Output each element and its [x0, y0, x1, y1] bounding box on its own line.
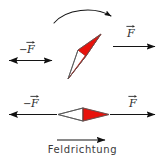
- lower-compass-needle: [58, 108, 109, 122]
- field-direction-caption: Feldrichtung: [0, 145, 165, 155]
- force-symbol: F: [127, 27, 135, 40]
- force-symbol: F: [129, 97, 137, 110]
- label-negative-force-lower: − F: [23, 98, 40, 109]
- figure-vector-canvas: [0, 0, 165, 164]
- lower-left-force-arrow: [9, 111, 57, 118]
- label-negative-force-upper: − F: [19, 44, 36, 55]
- rotation-arc-arrow: [54, 10, 111, 23]
- upper-left-force-arrow-shaft: [9, 57, 52, 64]
- needle-red-half-upper: [78, 34, 101, 56]
- force-symbol: F: [31, 97, 39, 110]
- needle-white-half-lower: [58, 108, 83, 121]
- upper-compass-needle: [68, 34, 101, 79]
- needle-red-half-lower: [83, 108, 109, 121]
- physics-figure-compass-needle-torque: − F F − F: [0, 0, 165, 164]
- label-force-lower: F: [129, 98, 138, 109]
- force-symbol: F: [27, 43, 35, 56]
- label-force-upper: F: [127, 28, 136, 39]
